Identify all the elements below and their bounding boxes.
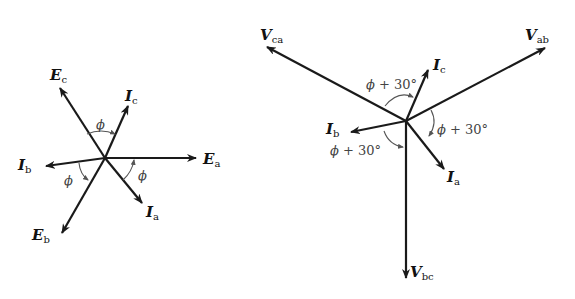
vector-Vab [406,48,545,121]
label-Ib: Ib [17,156,31,175]
label-Eb: Eb [31,226,50,245]
label-Ic: Ic [432,56,446,75]
angle-label-right: ϕ + 30° [437,122,488,137]
label-Ia: Ia [446,168,460,187]
left-phasor-diagram: ϕ ϕ ϕ Ea Eb Ec Ia Ib Ic [17,66,220,245]
label-Ec: Ec [49,66,67,85]
angle-arc-top [385,95,413,106]
label-Ic: Ic [124,87,138,106]
angle-label-phi-top: ϕ [96,117,105,132]
angle-label-left: ϕ + 30° [330,143,381,158]
angle-label-phi-left: ϕ [64,173,73,188]
vector-Ib [351,121,406,132]
angle-arc-right [123,160,134,180]
vector-Ib [46,158,105,166]
vector-Eb [62,158,105,233]
angle-arc-left [79,163,88,180]
vector-Ia [105,158,142,203]
label-Vca: Vca [260,26,283,45]
angle-label-top: ϕ + 30° [366,77,417,92]
angle-arc-right [429,110,434,136]
label-Vbc: Vbc [410,263,434,282]
label-Ib: Ib [325,120,339,139]
label-Ea: Ea [202,150,220,169]
angle-arc-left [384,131,403,147]
phasor-figure: ϕ ϕ ϕ Ea Eb Ec Ia Ib Ic ϕ + 30° ϕ + 30° … [0,0,575,299]
right-phasor-diagram: ϕ + 30° ϕ + 30° ϕ + 30° Vab Vbc Vca Ia I… [260,26,549,282]
phasor-diagrams-svg: ϕ ϕ ϕ Ea Eb Ec Ia Ib Ic ϕ + 30° ϕ + 30° … [0,0,575,299]
label-Vab: Vab [525,26,549,45]
label-Ia: Ia [145,203,159,222]
angle-label-phi-right: ϕ [138,168,147,183]
